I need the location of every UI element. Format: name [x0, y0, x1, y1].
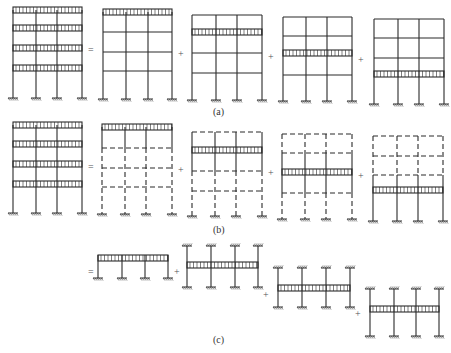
fixed-support-icon: [121, 99, 131, 102]
frame-full-frame-all-loaded: [8, 122, 87, 216]
loaded-beam: [13, 25, 82, 31]
fixed-support-icon: [300, 219, 310, 222]
frame-second-floor-loaded: [278, 17, 357, 104]
loaded-beam: [370, 306, 439, 312]
frame-first-floor-loaded: [369, 19, 449, 107]
fixed-support-icon: [321, 219, 331, 222]
fixed-support-icon: [231, 216, 241, 219]
loaded-beam: [373, 187, 443, 193]
fixed-support-icon: [297, 307, 307, 310]
fixed-support-icon: [210, 216, 220, 219]
fixed-support-icon: [273, 266, 283, 269]
loaded-beam: [283, 50, 352, 56]
frame-full-frame-all-loaded: [8, 7, 87, 101]
layered-method-diagram: [0, 0, 451, 353]
fixed-support-icon: [31, 98, 41, 101]
subframe-third-layer-subframe: [182, 244, 263, 290]
fixed-support-icon: [392, 221, 402, 224]
caption-b: (b): [213, 224, 225, 235]
frame-third-floor-loaded: [187, 15, 267, 103]
fixed-support-icon: [253, 287, 263, 290]
loaded-beam: [13, 161, 82, 167]
fixed-support-icon: [277, 219, 287, 222]
plus-sign: +: [263, 289, 269, 300]
equals-sign: =: [88, 161, 94, 172]
caption-a: (a): [213, 106, 224, 117]
subframe-top-layer-subframe: [93, 255, 173, 281]
fixed-support-icon: [52, 213, 62, 216]
fixed-support-icon: [77, 98, 87, 101]
equals-sign: =: [88, 44, 94, 55]
fixed-support-icon: [322, 101, 332, 104]
fixed-support-icon: [365, 336, 375, 339]
fixed-support-icon: [345, 307, 355, 310]
fixed-support-icon: [98, 99, 108, 102]
fixed-support-icon: [211, 100, 221, 103]
loaded-beam: [187, 262, 258, 268]
fixed-support-icon: [52, 98, 62, 101]
plus-sign: +: [178, 48, 184, 59]
loaded-beam: [103, 9, 172, 15]
fixed-support-icon: [273, 307, 283, 310]
plus-sign: +: [178, 164, 184, 175]
fixed-support-icon: [321, 266, 331, 269]
plus-sign: +: [268, 167, 274, 178]
fixed-support-icon: [182, 244, 192, 247]
loaded-beam: [278, 285, 350, 291]
fixed-support-icon: [347, 101, 357, 104]
loaded-beam: [282, 169, 352, 175]
fixed-support-icon: [141, 214, 151, 217]
fixed-support-icon: [182, 287, 192, 290]
fixed-support-icon: [31, 213, 41, 216]
fixed-support-icon: [365, 287, 375, 290]
plus-sign: +: [358, 170, 364, 181]
row-a-decomposition: [8, 7, 449, 107]
fixed-support-icon: [230, 244, 240, 247]
fixed-support-icon: [411, 287, 421, 290]
fixed-support-icon: [117, 278, 127, 281]
caption-c: (c): [213, 334, 224, 345]
loaded-beam: [13, 7, 82, 13]
fixed-support-icon: [8, 98, 18, 101]
fixed-support-icon: [143, 99, 153, 102]
loaded-beam: [102, 124, 172, 130]
fixed-support-icon: [347, 219, 357, 222]
fixed-support-icon: [93, 278, 103, 281]
loaded-beam: [13, 65, 82, 71]
fixed-support-icon: [434, 287, 444, 290]
fixed-support-icon: [187, 100, 197, 103]
fixed-support-icon: [414, 104, 424, 107]
fixed-support-icon: [369, 104, 379, 107]
fixed-support-icon: [321, 307, 331, 310]
fixed-support-icon: [389, 287, 399, 290]
frame-top-layer-open-frame: [97, 124, 177, 217]
fixed-support-icon: [438, 221, 448, 224]
fixed-support-icon: [393, 104, 403, 107]
fixed-support-icon: [389, 336, 399, 339]
fixed-support-icon: [257, 216, 267, 219]
subframe-first-layer-subframe: [365, 287, 444, 339]
fixed-support-icon: [206, 244, 216, 247]
fixed-support-icon: [167, 214, 177, 217]
loaded-beam: [98, 255, 168, 261]
plus-sign: +: [174, 266, 180, 277]
plus-sign: +: [355, 308, 361, 319]
frame-first-layer-open-frame: [368, 136, 448, 224]
fixed-support-icon: [368, 221, 378, 224]
plus-sign: +: [358, 54, 364, 65]
fixed-support-icon: [8, 213, 18, 216]
fixed-support-icon: [163, 278, 173, 281]
fixed-support-icon: [411, 336, 421, 339]
fixed-support-icon: [297, 266, 307, 269]
fixed-support-icon: [345, 266, 355, 269]
loaded-beam: [192, 29, 262, 35]
subframe-second-layer-subframe: [273, 266, 355, 310]
loaded-beam: [13, 181, 82, 187]
loaded-beam: [13, 141, 82, 147]
fixed-support-icon: [167, 99, 177, 102]
fixed-support-icon: [77, 213, 87, 216]
fixed-support-icon: [206, 287, 216, 290]
fixed-support-icon: [140, 278, 150, 281]
loaded-beam: [374, 71, 444, 77]
fixed-support-icon: [439, 104, 449, 107]
